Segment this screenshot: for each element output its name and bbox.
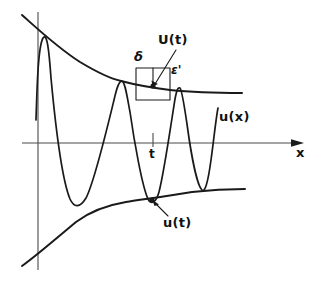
upper-envelope-curve bbox=[22, 15, 242, 93]
label-function: u(x) bbox=[219, 110, 250, 123]
label-delta: δ bbox=[134, 50, 143, 63]
oscillating-function-curve bbox=[36, 37, 218, 206]
label-lower-value: u(t) bbox=[163, 216, 192, 229]
label-upper-value: U(t) bbox=[158, 33, 188, 46]
label-x-axis: x bbox=[296, 146, 304, 159]
x-axis bbox=[22, 139, 304, 147]
figure-canvas: U(t) u(x) u(t) δ ε' t x bbox=[0, 0, 321, 295]
label-t-tick: t bbox=[149, 148, 155, 160]
lower-value-point-marker bbox=[149, 197, 154, 202]
lower-value-annotation bbox=[149, 197, 168, 216]
upper-value-point-marker bbox=[150, 83, 155, 88]
lower-envelope-curve bbox=[22, 189, 245, 266]
label-epsilon-prime: ε' bbox=[171, 64, 181, 76]
